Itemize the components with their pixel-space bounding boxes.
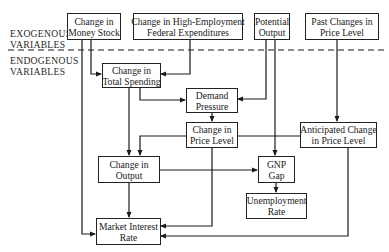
node-text: GNP <box>267 159 286 170</box>
node-text: Market Interest <box>99 221 158 232</box>
node-text: Money Stock <box>68 27 119 38</box>
node-text: Unemployment <box>247 195 307 206</box>
node-change-in-federal-expenditures: Change in High-EmploymentFederal Expendi… <box>133 13 243 40</box>
node-text: Rate <box>247 206 307 217</box>
node-text: Output <box>109 170 148 181</box>
node-demand-pressure: DemandPressure <box>186 88 238 113</box>
node-text: in Price Level <box>300 135 376 146</box>
node-change-in-total-spending: Change inTotal Spending <box>102 63 161 88</box>
node-text: Output <box>255 27 289 38</box>
node-text: Change in High-Employment <box>131 16 245 27</box>
node-market-interest-rate: Market InterestRate <box>96 218 161 245</box>
node-gnp-gap: GNPGap <box>258 156 295 183</box>
label-line: EXOGENOUS <box>10 28 71 39</box>
node-text: Total Spending <box>102 76 160 87</box>
node-anticipated-change-in-price-level: Anticipated Changein Price Level <box>300 122 377 148</box>
node-unemployment-rate: UnemploymentRate <box>246 193 307 219</box>
node-text: Price Level <box>190 135 234 146</box>
node-text: Potential <box>255 16 289 27</box>
node-change-in-output: Change inOutput <box>98 156 160 183</box>
node-change-in-money-stock: Change inMoney Stock <box>67 13 121 40</box>
node-text: Rate <box>99 232 158 243</box>
node-text: Change in <box>190 124 234 135</box>
label-line: ENDOGENOUS <box>10 55 79 66</box>
label-line: VARIABLES <box>10 39 71 50</box>
exogenous-variables-label: EXOGENOUS VARIABLES <box>10 28 71 50</box>
node-past-changes-in-price-level: Past Changes inPrice Level <box>305 13 379 40</box>
node-text: Federal Expenditures <box>131 27 245 38</box>
node-text: Price Level <box>311 27 372 38</box>
node-text: Change in <box>68 16 119 27</box>
node-potential-output: PotentialOutput <box>254 13 290 40</box>
label-line: VARIABLES <box>10 66 79 77</box>
node-text: Pressure <box>196 101 229 112</box>
node-text: Gap <box>267 170 286 181</box>
endogenous-variables-label: ENDOGENOUS VARIABLES <box>10 55 79 77</box>
node-text: Anticipated Change <box>300 124 376 135</box>
node-text: Change in <box>102 65 160 76</box>
node-text: Demand <box>196 90 229 101</box>
node-change-in-price-level: Change inPrice Level <box>186 122 238 148</box>
node-text: Past Changes in <box>311 16 372 27</box>
node-text: Change in <box>109 159 148 170</box>
